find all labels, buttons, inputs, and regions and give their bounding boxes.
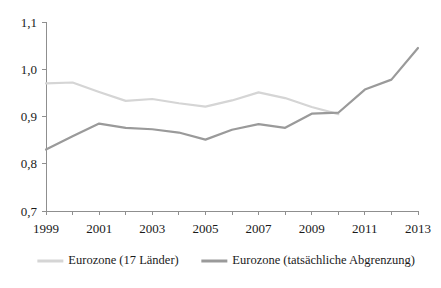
- x-tick-label: 2011: [352, 221, 378, 236]
- y-tick-label: 0,7: [21, 204, 38, 219]
- legend-label-1: Eurozone (tatsächliche Abgrenzung): [232, 253, 415, 267]
- y-tick-label: 1,1: [21, 15, 37, 30]
- x-tick-label: 2005: [192, 221, 218, 236]
- x-tick-label: 1999: [33, 221, 59, 236]
- x-tick-label: 2003: [139, 221, 165, 236]
- x-tick-label: 2013: [405, 221, 431, 236]
- x-tick-label: 2007: [246, 221, 273, 236]
- y-tick-label: 0,8: [21, 156, 37, 171]
- y-axis-ticks: 0,70,80,91,01,1: [21, 15, 46, 219]
- series-lines: [46, 48, 418, 150]
- x-axis-ticks: 19992001200320052007200920112013: [33, 211, 431, 236]
- series-line-0: [46, 82, 338, 114]
- line-chart: 0,70,80,91,01,1 199920012003200520072009…: [0, 0, 441, 288]
- chart-container: 0,70,80,91,01,1 199920012003200520072009…: [0, 0, 441, 288]
- x-tick-label: 2001: [86, 221, 112, 236]
- legend-label-0: Eurozone (17 Länder): [68, 253, 178, 267]
- y-tick-label: 1,0: [21, 62, 37, 77]
- series-line-1: [46, 48, 418, 150]
- x-tick-label: 2009: [299, 221, 325, 236]
- y-tick-label: 0,9: [21, 109, 37, 124]
- chart-legend: Eurozone (17 Länder)Eurozone (tatsächlic…: [37, 253, 415, 267]
